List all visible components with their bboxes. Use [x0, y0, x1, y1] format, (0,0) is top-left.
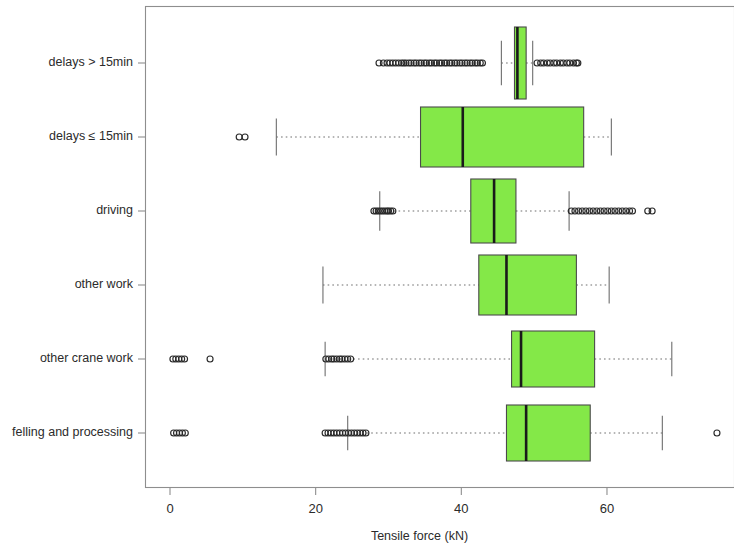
- y-axis-label-5: felling and processing: [12, 425, 133, 439]
- outlier-point-5-20: [714, 430, 720, 436]
- x-tick-label-0: 0: [166, 501, 173, 516]
- outlier-point-1-1: [242, 134, 248, 140]
- x-tick-label-3: 60: [600, 501, 614, 516]
- x-tick-label-2: 40: [454, 501, 468, 516]
- box-group-2: [371, 179, 655, 243]
- y-axis-label-4: other crane work: [40, 351, 134, 365]
- x-axis-title: Tensile force (kN): [371, 529, 468, 543]
- box-group-1: [236, 107, 611, 167]
- y-axis-label-2: driving: [96, 203, 133, 217]
- box-group-4: [170, 331, 672, 387]
- outlier-point-2-29: [649, 208, 655, 214]
- x-tick-label-1: 20: [308, 501, 322, 516]
- box-group-0: [376, 27, 581, 99]
- y-axis-label-3: other work: [75, 277, 134, 291]
- outlier-point-1-0: [236, 134, 242, 140]
- y-axis-label-0: delays > 15min: [49, 55, 133, 69]
- box-rect-4: [512, 331, 595, 387]
- box-group-5: [171, 405, 720, 461]
- boxplot-figure: delays > 15mindelays ≤ 15mindrivingother…: [0, 0, 734, 552]
- box-group-3: [323, 255, 609, 315]
- plot-frame: [146, 7, 734, 488]
- box-rect-3: [479, 255, 577, 315]
- box-rect-5: [506, 405, 590, 461]
- y-axis-label-1: delays ≤ 15min: [49, 129, 133, 143]
- boxplot-canvas: delays > 15mindelays ≤ 15mindrivingother…: [0, 0, 734, 552]
- outlier-point-4-5: [207, 356, 213, 362]
- box-rect-1: [421, 107, 584, 167]
